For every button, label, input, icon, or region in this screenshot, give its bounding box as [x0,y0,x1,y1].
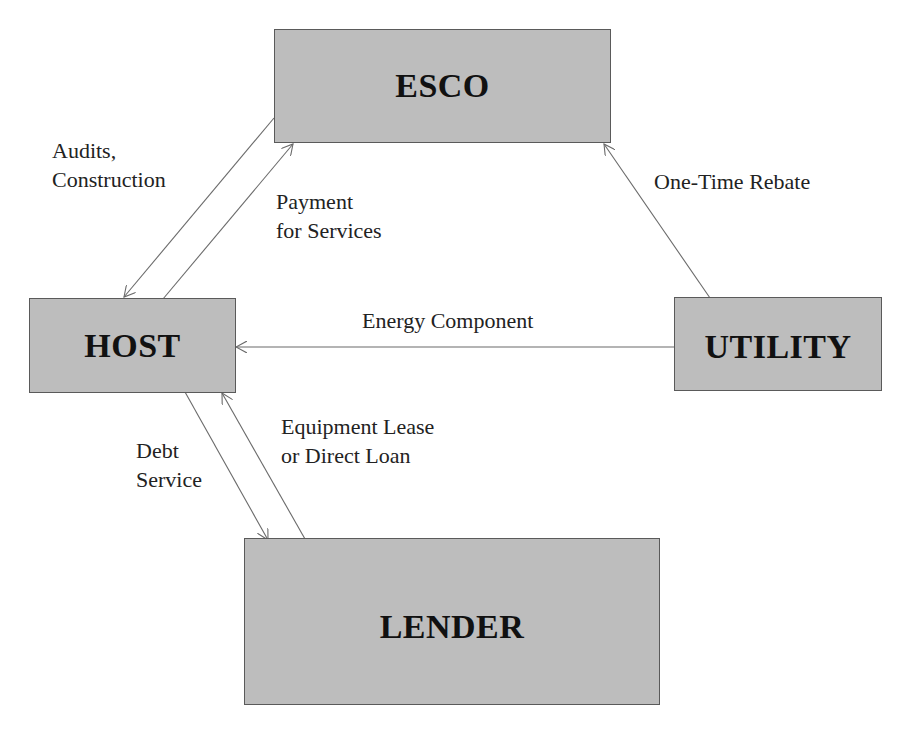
label-debt-service: Debt Service [136,436,202,494]
label-line: Equipment Lease [281,412,434,441]
label-line: for Services [276,216,382,245]
utility-box: UTILITY [674,297,882,391]
label-payment-for-services: Payment for Services [276,187,382,245]
utility-label: UTILITY [704,328,851,366]
esco-label: ESCO [395,67,490,105]
label-equipment-lease: Equipment Lease or Direct Loan [281,412,434,470]
label-line: One-Time Rebate [654,167,810,196]
label-line: Energy Component [362,306,533,335]
label-line: Audits, [52,136,166,165]
label-line: or Direct Loan [281,441,434,470]
label-line: Service [136,465,202,494]
label-energy-component: Energy Component [362,306,533,335]
label-line: Construction [52,165,166,194]
host-label: HOST [84,327,180,365]
label-line: Debt [136,436,202,465]
lender-box: LENDER [244,538,660,705]
label-audits-construction: Audits, Construction [52,136,166,194]
label-one-time-rebate: One-Time Rebate [654,167,810,196]
host-box: HOST [29,298,236,393]
arrow-host-to-esco [163,144,293,299]
label-line: Payment [276,187,382,216]
esco-box: ESCO [274,29,611,143]
lender-label: LENDER [380,608,525,646]
